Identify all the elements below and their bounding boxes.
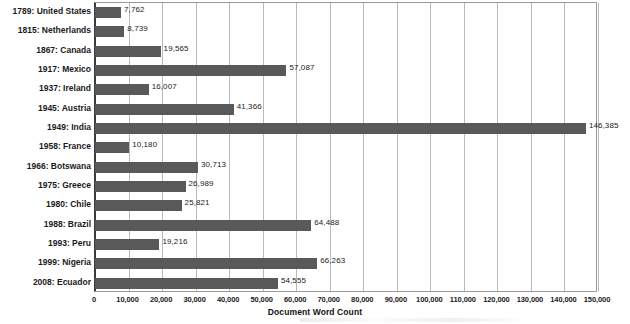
x-tick-label: 0: [92, 294, 96, 305]
bar-value-label: 146,385: [586, 120, 619, 131]
bar: [95, 220, 311, 231]
bar-value-label: 19,565: [161, 43, 189, 54]
bar-value-label: 54,555: [278, 275, 306, 286]
y-axis-category-label: 1949: India: [2, 118, 94, 137]
x-tick-label: 110,000: [450, 294, 476, 305]
x-tick-label: 90,000: [385, 294, 407, 305]
bar-row: 66,263: [95, 254, 596, 273]
bar-value-label: 16,007: [149, 81, 177, 92]
bar: [95, 258, 317, 269]
x-tick-label: 20,000: [150, 294, 172, 305]
x-tick-label: 60,000: [284, 294, 306, 305]
x-tick-label: 80,000: [351, 294, 373, 305]
bar-value-label: 26,989: [186, 178, 214, 189]
bar-row: 7,762: [95, 3, 596, 22]
plot-area: 7,7628,73919,56557,08716,00741,366146,38…: [94, 2, 597, 292]
y-axis-category-label: 1980: Chile: [2, 195, 94, 214]
bar-value-label: 66,263: [317, 255, 345, 266]
bar-value-label: 10,180: [129, 139, 157, 150]
y-axis-category-label: 1966: Botswana: [2, 157, 94, 176]
gridline-150000: [598, 3, 599, 291]
bar: [95, 200, 182, 211]
x-tick-label: 10,000: [116, 294, 138, 305]
scan-artifact: [300, 318, 530, 322]
bar-row: 146,385: [95, 119, 596, 138]
x-tick-label: 50,000: [250, 294, 272, 305]
bar: [95, 46, 161, 57]
bar: [95, 278, 278, 289]
bar-value-label: 64,488: [311, 217, 339, 228]
bar-value-label: 8,739: [124, 23, 148, 34]
bar-value-label: 7,762: [121, 4, 145, 15]
x-tick-label: 100,000: [416, 294, 442, 305]
y-axis-category-label: 1958: France: [2, 137, 94, 156]
bar: [95, 65, 286, 76]
bar-row: 54,555: [95, 274, 596, 293]
bar-row: 64,488: [95, 216, 596, 235]
bar: [95, 181, 186, 192]
y-axis-category-label: 1993: Peru: [2, 234, 94, 253]
x-tick-label: 30,000: [183, 294, 205, 305]
bar-row: 19,565: [95, 42, 596, 61]
bar: [95, 239, 159, 250]
bar: [95, 84, 149, 95]
x-tick-label: 120,000: [483, 294, 509, 305]
bar: [95, 162, 198, 173]
x-axis-tick-labels: 010,00020,00030,00040,00050,00060,00070,…: [0, 294, 630, 306]
bar-value-label: 57,087: [286, 62, 314, 73]
y-axis-category-label: 1988: Brazil: [2, 215, 94, 234]
y-axis-category-label: 2008: Ecuador: [2, 273, 94, 292]
bar-row: 8,739: [95, 22, 596, 41]
bar-row: 57,087: [95, 61, 596, 80]
bar-value-label: 19,216: [159, 236, 187, 247]
x-tick-label: 150,000: [584, 294, 610, 305]
bar: [95, 7, 121, 18]
bar-row: 26,989: [95, 177, 596, 196]
bar: [95, 123, 586, 134]
y-axis-category-label: 1937: Ireland: [2, 79, 94, 98]
y-axis-category-label: 1917: Mexico: [2, 60, 94, 79]
horizontal-bar-chart: 1789: United States1815: Netherlands1867…: [0, 0, 630, 324]
bar-row: 41,366: [95, 100, 596, 119]
bar-row: 30,713: [95, 158, 596, 177]
bar-row: 25,821: [95, 196, 596, 215]
x-axis-title: Document Word Count: [0, 307, 630, 317]
bar-row: 16,007: [95, 80, 596, 99]
x-tick-label: 140,000: [550, 294, 576, 305]
bar: [95, 26, 124, 37]
bar-row: 10,180: [95, 138, 596, 157]
x-tick-label: 70,000: [318, 294, 340, 305]
y-axis-category-label: 1815: Netherlands: [2, 21, 94, 40]
bar: [95, 142, 129, 153]
y-axis-category-label: 1789: United States: [2, 2, 94, 21]
y-axis-category-label: 1867: Canada: [2, 41, 94, 60]
bar-row: 19,216: [95, 235, 596, 254]
x-tick-label: 40,000: [217, 294, 239, 305]
bar-value-label: 41,366: [234, 101, 262, 112]
y-axis-category-label: 1975: Greece: [2, 176, 94, 195]
y-axis-category-label: 1945: Austria: [2, 99, 94, 118]
x-tick-label: 130,000: [517, 294, 543, 305]
bar: [95, 104, 234, 115]
bar-value-label: 30,713: [198, 159, 226, 170]
bar-value-label: 25,821: [182, 197, 210, 208]
y-axis-category-label: 1999: Nigeria: [2, 253, 94, 272]
